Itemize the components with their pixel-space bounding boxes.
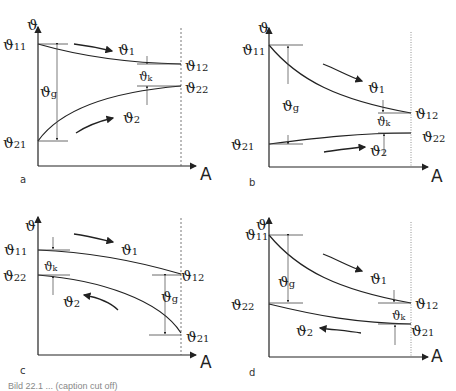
panel-label: d [249, 367, 255, 378]
flow-arrow-2 [324, 147, 365, 152]
panel-a-cocurrent: ϑ A ϑ11 ϑ21 ϑ12 ϑ22 ϑg ϑk ϑ1 ϑ2 a [0, 0, 228, 190]
label-g: ϑg [40, 83, 58, 101]
label-flow-2: ϑ2 [63, 293, 80, 311]
label-k: ϑk [392, 309, 406, 323]
label-t12: ϑ12 [415, 105, 438, 123]
figure-caption: Bild 22.1 ... (caption cut off) [8, 381, 117, 391]
label-t12: ϑ12 [185, 57, 208, 75]
panel-c-diagram: ϑ A ϑ11 ϑ22 ϑ12 ϑ21 ϑg ϑk ϑ1 ϑ2 c [0, 190, 228, 380]
label-t12: ϑ12 [415, 295, 438, 313]
label-flow-1: ϑ1 [370, 270, 387, 288]
panel-d-countercurrent: ϑ A ϑ11 ϑ22 ϑ12 ϑ21 ϑg ϑk ϑ1 ϑ2 d [228, 190, 456, 380]
label-flow-2: ϑ2 [123, 109, 140, 127]
panel-label: b [249, 177, 255, 188]
y-axis-label: ϑ [27, 16, 38, 34]
panel-a-diagram: ϑ A ϑ11 ϑ21 ϑ12 ϑ22 ϑg ϑk ϑ1 ϑ2 a [0, 0, 228, 190]
flow-arrow-2 [320, 328, 361, 333]
label-g: ϑg [161, 288, 179, 306]
label-t21: ϑ21 [231, 136, 254, 154]
panel-c-countercurrent: ϑ A ϑ11 ϑ22 ϑ12 ϑ21 ϑg ϑk ϑ1 ϑ2 c [0, 190, 228, 380]
label-flow-1: ϑ1 [118, 41, 135, 59]
label-flow-2: ϑ2 [296, 322, 313, 340]
curve-fluid-1 [269, 235, 411, 303]
label-g: ϑg [278, 273, 296, 291]
panel-b-cocurrent: ϑ A ϑ11 ϑ21 ϑ12 ϑ22 ϑg ϑk ϑ1 ϑ2 b [228, 0, 456, 190]
label-flow-1: ϑ1 [121, 241, 138, 259]
panel-label: a [20, 174, 26, 185]
curve-fluid-2 [38, 86, 181, 141]
x-axis-label: A [431, 346, 443, 366]
label-flow-2: ϑ2 [370, 142, 387, 160]
label-t11: ϑ11 [3, 36, 26, 54]
label-g: ϑg [282, 97, 300, 115]
label-t22: ϑ22 [231, 296, 254, 314]
label-k: ϑk [377, 115, 391, 129]
label-t12: ϑ12 [181, 267, 204, 285]
label-t21: ϑ21 [186, 328, 209, 346]
y-axis-label: ϑ [258, 19, 269, 37]
label-flow-1: ϑ1 [368, 79, 385, 97]
flow-arrow-1 [323, 254, 362, 271]
curve-fluid-2 [269, 304, 411, 324]
flow-arrow-1 [74, 44, 112, 51]
flow-arrow-1 [323, 64, 362, 81]
y-axis-label: ϑ [25, 217, 36, 235]
label-k: ϑk [44, 260, 58, 274]
label-t22: ϑ22 [185, 79, 208, 97]
label-t11: ϑ11 [242, 41, 265, 59]
label-t21: ϑ21 [3, 134, 26, 152]
label-t21: ϑ21 [411, 322, 434, 340]
curve-fluid-2 [269, 133, 411, 144]
flow-arrow-1 [74, 234, 113, 242]
panel-d-diagram: ϑ A ϑ11 ϑ22 ϑ12 ϑ21 ϑg ϑk ϑ1 ϑ2 d [228, 190, 456, 380]
flow-arrow-2 [76, 118, 113, 133]
label-t22: ϑ22 [422, 128, 445, 146]
curve-fluid-1 [38, 44, 181, 64]
label-k: ϑk [139, 70, 153, 84]
label-t22: ϑ22 [3, 267, 26, 285]
panel-b-diagram: ϑ A ϑ11 ϑ21 ϑ12 ϑ22 ϑg ϑk ϑ1 ϑ2 b [228, 0, 456, 190]
label-t11: ϑ11 [4, 241, 27, 259]
x-axis-label: A [200, 352, 212, 372]
curve-fluid-1 [38, 250, 181, 274]
flow-arrow-2 [84, 295, 118, 310]
x-axis-label: A [431, 166, 443, 186]
x-axis-label: A [200, 164, 212, 184]
panel-label: c [20, 365, 26, 376]
